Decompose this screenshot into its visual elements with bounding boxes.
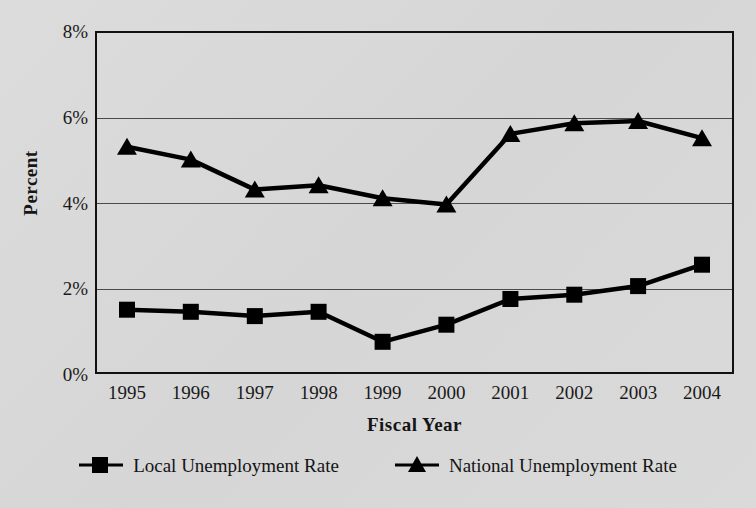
y-tick-label-8-percent: 8% [40,22,88,41]
x-tick-label-1999: 1999 [348,383,418,402]
gridline-6-percent [97,118,732,119]
triangle-marker-icon [395,455,439,475]
legend-label-local: Local Unemployment Rate [133,456,339,475]
unemployment-rate-line-chart: 0%2%4%6%8% Percent 199519961997199819992… [0,0,756,508]
gridline-2-percent [97,289,732,290]
x-tick-label-1997: 1997 [220,383,290,402]
x-tick-label-2003: 2003 [603,383,673,402]
x-tick-label-2000: 2000 [411,383,481,402]
legend-entry-local: Local Unemployment Rate [79,455,339,475]
legend-label-national: National Unemployment Rate [449,456,677,475]
x-tick-label-1996: 1996 [156,383,226,402]
plot-area [95,31,734,374]
x-tick-label-1995: 1995 [92,383,162,402]
y-tick-label-6-percent: 6% [40,107,88,126]
x-axis-tick-labels: 1995199619971998199920002001200220032004 [95,383,734,413]
chart-legend: Local Unemployment Rate National Unemplo… [0,455,756,475]
y-tick-label-0-percent: 0% [40,365,88,384]
y-tick-label-4-percent: 4% [40,193,88,212]
x-tick-label-2002: 2002 [539,383,609,402]
x-tick-label-1998: 1998 [284,383,354,402]
y-axis-title: Percent [20,128,42,238]
x-tick-label-2004: 2004 [667,383,737,402]
square-marker-icon [79,455,123,475]
y-tick-label-2-percent: 2% [40,279,88,298]
gridline-4-percent [97,203,732,204]
x-axis-title: Fiscal Year [95,414,734,436]
legend-entry-national: National Unemployment Rate [395,455,677,475]
y-axis-tick-labels: 0%2%4%6%8% [30,0,88,508]
x-tick-label-2001: 2001 [475,383,545,402]
